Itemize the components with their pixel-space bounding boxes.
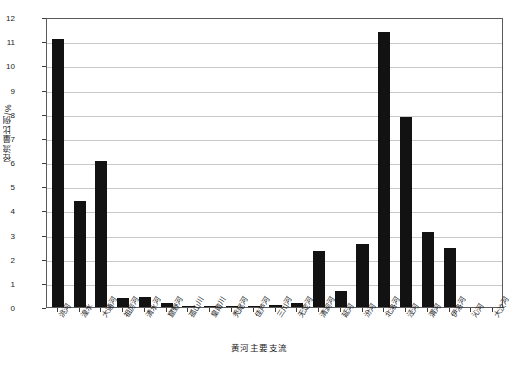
y-axis-tick-label: 10 [6, 62, 15, 71]
y-axis-tick-label: 9 [11, 86, 15, 95]
bar [313, 251, 325, 307]
y-axis-tick-label: 7 [11, 134, 15, 143]
plot-area [46, 18, 503, 308]
bar [444, 248, 456, 307]
y-axis-tick-label: 2 [11, 255, 15, 264]
bar [95, 161, 107, 307]
y-axis-tick-mark [42, 139, 46, 140]
bar [422, 232, 434, 307]
y-axis-tick-label: 1 [11, 279, 15, 288]
y-axis-tick-mark [42, 284, 46, 285]
y-axis-tick-mark [42, 187, 46, 188]
y-axis-tick-label: 6 [11, 159, 15, 168]
x-axis-title: 黄河主要支流 [0, 341, 518, 353]
y-axis-tick-mark [42, 163, 46, 164]
y-axis-tick-label: 8 [11, 110, 15, 119]
y-axis-tick-label: 12 [6, 14, 15, 23]
bar-series [47, 19, 502, 307]
y-axis-tick-mark [42, 236, 46, 237]
y-axis-tick-mark [42, 260, 46, 261]
bar-chart: 径流量比例/% 黄河主要支流 0123456789101112洮河湟水大通河祖厉… [0, 0, 518, 365]
y-axis-tick-label: 3 [11, 231, 15, 240]
y-axis-tick-mark [42, 42, 46, 43]
bar [74, 201, 86, 307]
y-axis-tick-label: 0 [11, 304, 15, 313]
bar [378, 32, 390, 308]
y-axis-tick-mark [42, 18, 46, 19]
y-axis-tick-mark [42, 91, 46, 92]
y-axis-tick-mark [42, 115, 46, 116]
y-axis-tick-mark [42, 66, 46, 67]
y-axis-tick-mark [42, 308, 46, 309]
y-axis-tick-label: 5 [11, 183, 15, 192]
bar [356, 244, 368, 307]
bar [400, 117, 412, 307]
y-axis-tick-mark [42, 211, 46, 212]
y-axis-tick-label: 4 [11, 207, 15, 216]
bar [52, 39, 64, 307]
y-axis-tick-label: 11 [7, 38, 15, 47]
